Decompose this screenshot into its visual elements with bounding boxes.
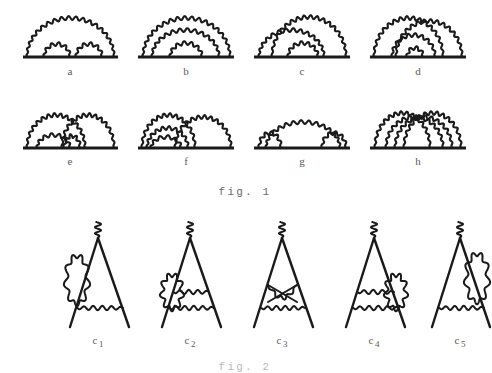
external-photon-c2 xyxy=(187,222,193,238)
fermion-leg-right-c2 xyxy=(190,238,221,327)
photon-arc-b-2 xyxy=(169,41,202,57)
photon-arc-c-2 xyxy=(287,41,318,57)
vertex-label-c2-subscript: 2 xyxy=(189,339,195,349)
diagram-c xyxy=(254,15,350,57)
fermion-leg-right-c1 xyxy=(98,238,129,327)
vertex-label-c4-subscript: 4 xyxy=(373,339,379,349)
vertex-diagram-c1 xyxy=(64,222,129,327)
vertex-label-c2: c2 xyxy=(168,334,212,349)
diagram-f xyxy=(138,113,234,148)
internal-photon-c1-0 xyxy=(77,306,123,310)
fermion-leg-left-c4 xyxy=(346,238,374,327)
external-photon-c1 xyxy=(95,222,101,238)
figure-1-caption: fig. 1 xyxy=(145,186,345,198)
diagram-label-d: d xyxy=(398,65,438,77)
vertex-label-c3: c3 xyxy=(260,334,304,349)
diagram-d xyxy=(370,16,466,57)
diagram-label-c: c xyxy=(282,65,322,77)
vertex-diagram-c3 xyxy=(254,222,313,327)
fermion-leg-left-c3 xyxy=(254,238,282,327)
vertex-label-c5: c5 xyxy=(438,334,482,349)
diagram-g xyxy=(254,120,350,148)
figure-2-caption: fig. 2 xyxy=(145,361,345,373)
fermion-leg-right-c4 xyxy=(374,238,405,327)
diagram-label-e: e xyxy=(50,155,90,167)
self-energy-blob-c1 xyxy=(64,255,90,306)
vertex-label-c5-subscript: 5 xyxy=(459,339,465,349)
diagram-label-g: g xyxy=(282,155,322,167)
vertex-diagram-c4 xyxy=(346,222,408,327)
diagram-label-a: a xyxy=(50,65,90,77)
diagram-label-h: h xyxy=(398,155,438,167)
internal-photon-c3-1 xyxy=(261,306,305,310)
fermion-leg-right-c3 xyxy=(282,238,313,327)
photon-arc-d-3 xyxy=(406,46,423,57)
vertex-diagram-c5 xyxy=(432,222,490,327)
diagram-e xyxy=(23,113,118,148)
vertex-label-c1: c1 xyxy=(76,334,120,349)
vertex-label-c1-subscript: 1 xyxy=(97,339,103,349)
photon-arc-c-1 xyxy=(259,28,325,57)
vertex-label-c4: c4 xyxy=(352,334,396,349)
external-photon-c5 xyxy=(457,222,463,238)
external-photon-c4 xyxy=(371,222,377,238)
diagram-label-b: b xyxy=(166,65,206,77)
photon-arc-g-2 xyxy=(321,131,346,148)
internal-photon-c2-0 xyxy=(173,290,209,294)
diagram-a xyxy=(23,16,118,57)
fermion-leg-left-c5 xyxy=(432,238,460,327)
vertex-diagram-c2 xyxy=(160,222,221,327)
external-photon-c3 xyxy=(279,222,285,238)
fermion-leg-left-c1 xyxy=(70,238,98,327)
fermion-leg-left-c2 xyxy=(162,238,190,327)
photon-arc-a-1 xyxy=(43,42,70,57)
internal-photon-c5-0 xyxy=(439,306,484,310)
diagram-label-f: f xyxy=(166,155,206,167)
photon-arc-f-3 xyxy=(150,135,181,148)
diagram-h xyxy=(370,111,466,148)
vertex-label-c3-subscript: 3 xyxy=(281,339,287,349)
photon-arc-a-2 xyxy=(75,42,102,57)
diagram-b xyxy=(138,16,234,57)
